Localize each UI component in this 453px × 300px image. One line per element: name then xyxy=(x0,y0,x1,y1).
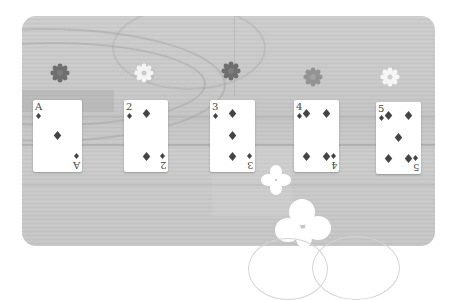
diamond-icon xyxy=(322,152,331,161)
card-rank: 5 xyxy=(413,162,419,172)
card-rank: 2 xyxy=(160,160,166,170)
diamond-icon xyxy=(247,153,252,159)
playing-card-ace-of-diamonds[interactable]: A A xyxy=(33,100,82,172)
diamond-icon xyxy=(160,153,165,159)
diamond-icon xyxy=(228,131,237,140)
poker-chip-icon[interactable] xyxy=(134,63,154,83)
diamond-icon xyxy=(404,111,413,120)
card-rank: A xyxy=(35,102,42,112)
diamond-icon xyxy=(213,113,218,119)
poker-chip-icon[interactable] xyxy=(303,67,323,87)
card-rank: 3 xyxy=(247,160,253,170)
plank-seam xyxy=(234,16,235,96)
diamond-icon xyxy=(74,153,79,159)
game-table: A A 2 2 3 3 4 4 5 xyxy=(22,16,435,246)
diamond-icon xyxy=(384,154,393,163)
clover-icon xyxy=(260,164,292,196)
diamond-icon xyxy=(142,109,151,118)
playing-card-five-of-diamonds[interactable]: 5 5 xyxy=(376,102,421,174)
playing-card-four-of-diamonds[interactable]: 4 4 xyxy=(294,100,339,172)
card-rank: 2 xyxy=(126,102,132,112)
playing-card-three-of-diamonds[interactable]: 3 3 xyxy=(210,100,255,172)
diamond-icon xyxy=(322,109,331,118)
card-rank: 4 xyxy=(331,160,337,170)
diamond-icon xyxy=(302,152,311,161)
poker-chip-icon[interactable] xyxy=(221,61,241,81)
diamond-icon xyxy=(228,109,237,118)
poker-chip-icon[interactable] xyxy=(380,67,400,87)
diamond-icon xyxy=(36,113,41,119)
diamond-icon xyxy=(413,155,418,161)
card-rank: 3 xyxy=(212,102,218,112)
diamond-icon xyxy=(331,153,336,159)
diamond-icon xyxy=(302,109,311,118)
diamond-icon xyxy=(394,133,403,142)
diamond-icon xyxy=(384,111,393,120)
diamond-icon xyxy=(404,154,413,163)
decorative-arc xyxy=(312,236,400,300)
poker-chip-icon[interactable] xyxy=(50,63,70,83)
diamond-icon xyxy=(228,152,237,161)
diamond-icon xyxy=(53,131,62,140)
plank-seam xyxy=(22,184,435,186)
diamond-icon xyxy=(142,152,151,161)
playing-card-two-of-diamonds[interactable]: 2 2 xyxy=(124,100,168,172)
card-rank: A xyxy=(73,160,80,170)
diamond-icon xyxy=(127,113,132,119)
